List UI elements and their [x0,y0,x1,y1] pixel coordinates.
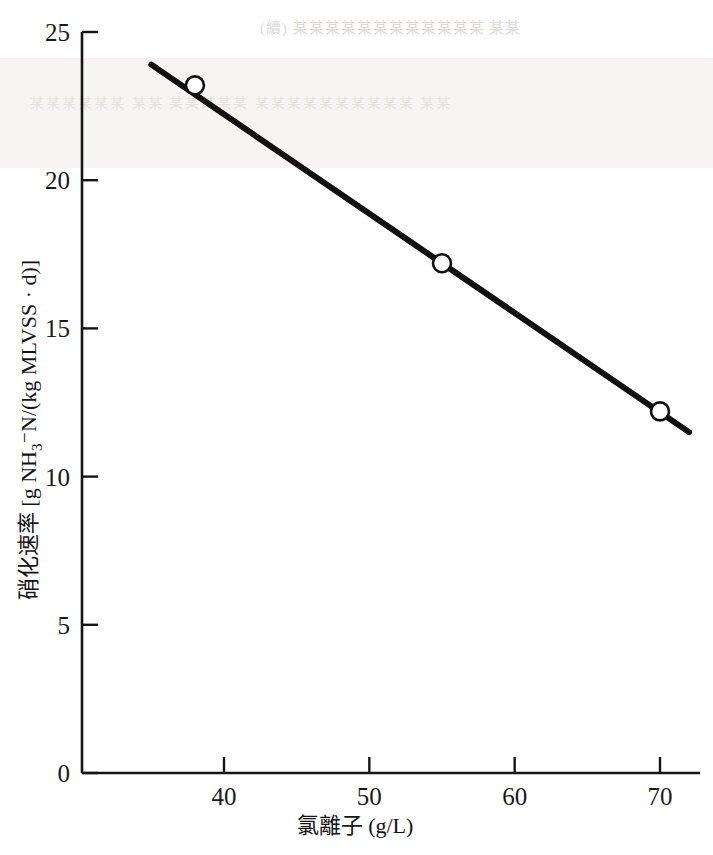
data-series-group [151,65,689,433]
data-point-2 [651,402,669,420]
axes-group [82,32,700,773]
x-tick-label-70: 70 [648,783,673,810]
chart-svg: 0510152025 40506070 氯離子 (g/L) 硝化速率 [g NH… [0,0,713,855]
y-tick-label-5: 5 [58,612,71,639]
data-point-1 [433,254,451,272]
x-axis-ticks: 40506070 [212,757,673,810]
y-axis-title: 硝化速率 [g NH3⁻N/(kg MLVSS · d)] [16,260,45,600]
x-tick-label-40: 40 [212,783,237,810]
y-tick-label-20: 20 [45,167,70,194]
y-axis-title-text: 硝化速率 [g NH3⁻N/(kg MLVSS · d)] [16,260,45,600]
x-tick-label-50: 50 [357,783,382,810]
y-tick-label-0: 0 [58,760,71,787]
y-tick-label-15: 15 [45,315,70,342]
y-axis-ticks: 0510152025 [45,19,98,787]
data-point-0 [186,76,204,94]
series-0-fit-line [151,65,689,433]
x-tick-label-60: 60 [502,783,527,810]
y-tick-label-25: 25 [45,19,70,46]
x-axis-title: 氯離子 (g/L) [297,813,414,838]
figure-container: (續) 某某某某某某某某某某某某 某某 某某某某某某 某某 某某某某某 某某某某… [0,0,713,855]
y-tick-label-10: 10 [45,464,70,491]
